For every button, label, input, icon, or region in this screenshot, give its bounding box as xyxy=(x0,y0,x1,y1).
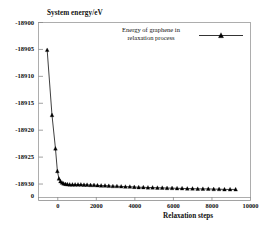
y-tick-label: -18905 xyxy=(0,45,34,52)
y-tick-label: -18925 xyxy=(0,153,34,160)
x-tick-label: 10000 xyxy=(236,202,266,209)
y-axis xyxy=(39,23,44,185)
y-tick-label-extra: 0 xyxy=(0,192,34,199)
x-tick-label: 8000 xyxy=(197,202,227,209)
x-tick-label: 2000 xyxy=(81,202,111,209)
x-tick-label: 6000 xyxy=(158,202,188,209)
y-tick-label: -18930 xyxy=(0,180,34,187)
y-tick-label: -18915 xyxy=(0,99,34,106)
data-series xyxy=(45,48,237,191)
x-tick-label: 4000 xyxy=(120,202,150,209)
x-axis-title: Relaxation steps xyxy=(163,212,213,220)
y-axis-title: System energy/eV xyxy=(47,9,103,17)
chart-figure: System energy/eV Relaxation steps -18900… xyxy=(0,0,271,235)
legend-marker xyxy=(199,33,243,38)
y-tick-label: -18920 xyxy=(0,126,34,133)
plot-frame xyxy=(39,23,251,198)
y-tick-label: -18910 xyxy=(0,72,34,79)
y-tick-label: -18900 xyxy=(0,19,34,26)
legend-label: Energy of graphene in relaxation process xyxy=(108,26,194,43)
x-tick-label: 0 xyxy=(43,202,73,209)
